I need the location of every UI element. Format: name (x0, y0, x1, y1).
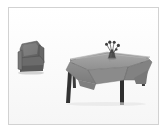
image-canvas: Dining table with tablecloth and armchai… (0, 0, 168, 134)
vase-body (109, 52, 116, 58)
armchair (18, 41, 44, 75)
armchair-left-arm (18, 50, 22, 70)
vase-neck (111, 50, 114, 53)
armchair-seat-front (20, 65, 43, 72)
armchair-shadow (18, 71, 44, 74)
table-floor-shadow (66, 102, 146, 106)
still-life-illustration (0, 0, 168, 134)
armchair-backrest-highlight (23, 43, 38, 56)
vase-shadow (108, 57, 117, 59)
